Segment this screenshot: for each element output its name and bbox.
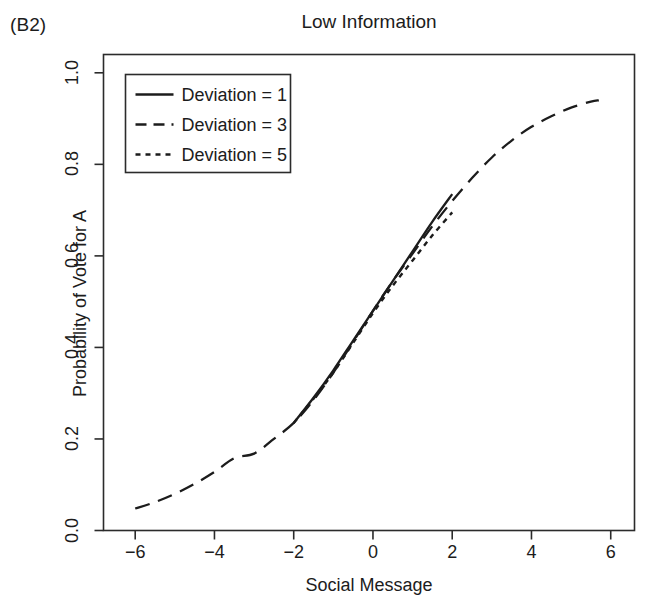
y-axis-ticks [95,73,104,531]
series-line-1 [294,194,453,423]
figure-panel-b2: (B2) Low Information Probability of Vote… [0,0,655,616]
y-tick-label: 0.8 [61,141,82,187]
legend: Deviation = 1Deviation = 3Deviation = 5 [126,75,291,173]
y-tick-label: 0.0 [61,507,82,553]
x-tick-label: 0 [350,542,396,563]
x-tick-label: −4 [191,542,237,563]
x-axis-ticks [135,531,611,540]
x-tick-label: 2 [429,542,475,563]
y-tick-label: 0.2 [61,415,82,461]
legend-label-2: Deviation = 3 [182,115,288,135]
y-tick-label: 0.6 [61,232,82,278]
plot-area: Deviation = 1Deviation = 3Deviation = 5 [0,0,655,616]
y-tick-label: 1.0 [61,49,82,95]
x-tick-label: 6 [588,542,634,563]
y-tick-label: 0.4 [61,324,82,370]
x-tick-label: −2 [271,542,317,563]
x-tick-label: 4 [508,542,554,563]
legend-label-1: Deviation = 1 [182,85,288,105]
legend-label-3: Deviation = 5 [182,145,288,165]
x-tick-label: −6 [112,542,158,563]
